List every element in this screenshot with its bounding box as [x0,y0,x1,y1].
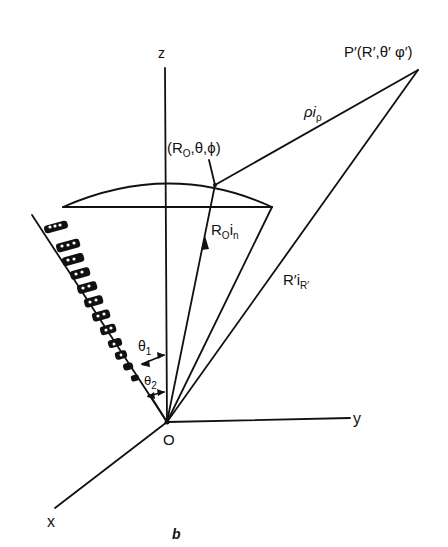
theta1-label: θ1 [138,339,151,357]
y-axis-label: y [353,411,361,427]
y-axis [167,418,350,422]
rho-symbol: ρi [304,103,316,120]
surface-point-coords: ,θ,ϕ) [191,139,221,156]
surface-point-subscript: O [183,148,191,159]
surface-point-text: (R [167,139,183,156]
r0-vector-line [167,185,215,422]
r0-unit-subscript: n [233,230,239,241]
origin-label: O [163,432,175,447]
origin-dot [165,420,170,425]
theta2-label: θ2 [144,374,157,391]
rho-subscript: ρ [316,112,322,123]
theta2-arrowhead-right [157,389,165,396]
inner-ray [150,395,167,422]
r0-arrowhead [201,236,209,250]
z-axis [165,68,167,422]
theta1-subscript: 1 [146,346,152,357]
spherical-cap-arc [63,184,272,208]
rho-vector-label: ρiρ [304,104,322,123]
figure-caption: b [172,527,181,541]
observation-point-label: P′(R′,θ′ φ′) [344,44,412,59]
x-axis-label: x [47,514,55,530]
surface-point-leader [209,160,215,185]
diagram-canvas [0,0,448,547]
surface-point-label: (RO,θ,ϕ) [167,140,221,159]
surface-point-dot [213,183,217,187]
r0-symbol: R [211,221,222,238]
x-axis [55,422,167,508]
rho-vector-line [215,70,418,185]
z-axis-label: z [158,46,165,60]
r0-subscript: O [222,230,230,241]
theta1-symbol: θ [138,338,146,354]
r0-vector-label: ROin [211,222,239,241]
theta1-arrowhead-right [157,352,165,359]
r-prime-symbol: R′i [283,271,300,288]
coil-elements [43,220,139,382]
theta2-subscript: 2 [151,380,157,391]
r-prime-vector-label: R′iR′ [283,272,309,291]
r-prime-subscript: R′ [300,280,309,291]
